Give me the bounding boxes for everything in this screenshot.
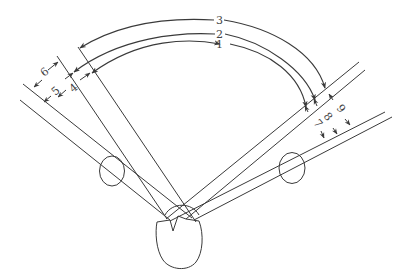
left-label-6: 6 — [38, 65, 52, 79]
right-label-9: 9 — [334, 102, 348, 116]
arc-label-2: 2 — [216, 28, 223, 41]
angle-arcs — [74, 19, 325, 107]
right-eye-circle — [279, 153, 305, 184]
visual-field-diagram: 1 2 3 4 5 6 7 8 9 — [0, 0, 403, 271]
left-eye-circle — [100, 156, 125, 186]
right-sight-lines — [166, 62, 392, 221]
arc-label-3: 3 — [216, 14, 223, 27]
